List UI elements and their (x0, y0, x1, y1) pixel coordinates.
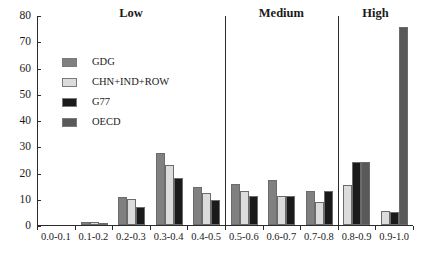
x-tick-mark (300, 226, 301, 230)
bar-chart-figure: 01020304050607080 0.0-0.10.1-0.20.2-0.30… (0, 0, 424, 262)
y-tick-mark (37, 147, 41, 148)
y-tick-label: 40 (20, 115, 32, 127)
bar (211, 200, 220, 225)
x-tick-label: 0.6-0.7 (263, 232, 301, 252)
bar (202, 193, 211, 225)
bar-group (263, 16, 301, 225)
bar (324, 191, 333, 225)
bar-group (301, 16, 339, 225)
bar (315, 202, 324, 225)
x-tick-label: 0.4-0.5 (187, 232, 225, 252)
bar-group (226, 16, 264, 225)
section-divider (225, 16, 226, 226)
bar (381, 211, 390, 225)
bar (81, 222, 90, 225)
y-tick-mark (37, 42, 41, 43)
y-tick-label: 0 (25, 220, 31, 232)
bar (231, 184, 240, 225)
legend-swatch-icon (62, 78, 77, 87)
x-tick-mark (75, 226, 76, 230)
legend-swatch-icon (62, 98, 77, 107)
bar (390, 212, 399, 225)
x-tick-mark (338, 226, 339, 230)
x-tick-mark (413, 226, 414, 230)
y-tick-mark (37, 95, 41, 96)
bar (193, 187, 202, 225)
x-tick-mark (112, 226, 113, 230)
y-tick-label: 20 (20, 168, 32, 180)
x-tick-label: 0.3-0.4 (150, 232, 188, 252)
legend-item: G77 (62, 92, 169, 112)
bar (136, 207, 145, 225)
bar (174, 178, 183, 225)
y-tick-mark (37, 174, 41, 175)
legend-label: GDG (92, 57, 115, 68)
legend-label: OECD (92, 117, 121, 128)
bar (90, 222, 99, 225)
x-tick-label: 0.5-0.6 (225, 232, 263, 252)
x-tick-mark (375, 226, 376, 230)
x-tick-label: 0.2-0.3 (112, 232, 150, 252)
bar-group (338, 16, 376, 225)
bar (343, 185, 352, 225)
x-tick-label: 0.9-1.0 (375, 232, 413, 252)
bar (352, 162, 361, 225)
x-tick-mark (150, 226, 151, 230)
bar (306, 191, 315, 225)
bar (118, 197, 127, 225)
section-divider (338, 16, 339, 226)
legend-label: CHN+IND+ROW (92, 77, 169, 88)
x-tick-mark (263, 226, 264, 230)
bar (361, 162, 370, 225)
y-tick-label: 70 (20, 37, 32, 49)
x-tick-mark (37, 226, 38, 230)
bar (286, 196, 295, 225)
legend-item: CHN+IND+ROW (62, 72, 169, 92)
y-tick-label: 10 (20, 194, 32, 206)
bar (165, 165, 174, 225)
bar (99, 223, 108, 225)
y-tick-mark (37, 69, 41, 70)
y-tick-mark (37, 16, 41, 17)
bar (277, 196, 286, 225)
bar (268, 180, 277, 225)
y-tick-mark (37, 121, 41, 122)
section-header: High (362, 6, 388, 21)
legend-item: GDG (62, 52, 169, 72)
chart-legend: GDGCHN+IND+ROWG77OECD (62, 52, 169, 132)
y-tick-label: 60 (20, 63, 32, 75)
x-tick-label: 0.8-0.9 (338, 232, 376, 252)
x-tick-label: 0.7-0.8 (300, 232, 338, 252)
bar (127, 199, 136, 225)
bar (249, 196, 258, 225)
x-tick-label: 0.1-0.2 (75, 232, 113, 252)
section-header: Low (119, 6, 143, 21)
legend-item: OECD (62, 112, 169, 132)
x-tick-label: 0.0-0.1 (37, 232, 75, 252)
bar-group (376, 16, 414, 225)
x-axis: 0.0-0.10.1-0.20.2-0.30.3-0.40.4-0.50.5-0… (37, 232, 413, 252)
bar (240, 191, 249, 225)
bar (156, 153, 165, 225)
y-axis: 01020304050607080 (0, 16, 31, 226)
y-tick-label: 30 (20, 142, 32, 154)
bar-group (188, 16, 226, 225)
y-tick-mark (37, 200, 41, 201)
x-tick-mark (225, 226, 226, 230)
bar (399, 27, 408, 225)
section-header: Medium (259, 6, 304, 21)
legend-swatch-icon (62, 58, 77, 67)
legend-swatch-icon (62, 118, 77, 127)
y-tick-label: 50 (20, 89, 32, 101)
legend-label: G77 (92, 97, 110, 108)
y-tick-label: 80 (20, 10, 32, 22)
x-tick-mark (187, 226, 188, 230)
